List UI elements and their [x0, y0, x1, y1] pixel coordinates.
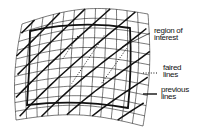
region-of-interest-label: region of interest — [154, 27, 182, 41]
label-line: lines — [163, 71, 181, 78]
label-line: lines — [161, 93, 189, 100]
thin-grid-lines — [15, 9, 150, 127]
faired-lines-label: faired lines — [163, 64, 181, 78]
region-leader-line — [122, 33, 150, 47]
previous-lines-label: previous lines — [161, 86, 189, 100]
label-line: interest — [154, 34, 182, 41]
